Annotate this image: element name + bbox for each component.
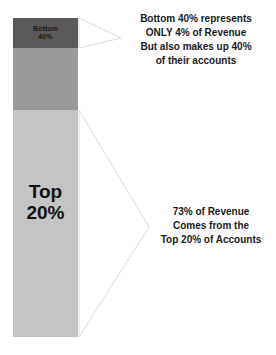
bar-segment-bottom-40: Bottom 40% <box>13 18 78 48</box>
callout-top-line-4: of their accounts <box>120 54 272 68</box>
leader-wedge-top <box>79 18 121 48</box>
top-label-line-2: 20% <box>26 202 64 223</box>
bar-segment-top-20-label: Top 20% <box>26 181 64 223</box>
bar-segment-top-20: Top 20% <box>13 110 78 337</box>
bottom-label-line-1: Bottom <box>33 25 58 34</box>
callout-top-line-2: ONLY 4% of Revenue <box>120 26 272 40</box>
leader-wedge-bottom <box>79 110 149 337</box>
bar-segment-middle <box>13 48 78 110</box>
callout-top-20-annotation: 73% of Revenue Comes from the Top 20% of… <box>150 205 272 247</box>
callout-bottom-line-3: Top 20% of Accounts <box>150 233 272 247</box>
stacked-bar: Bottom 40% Top 20% <box>13 18 78 337</box>
chart-canvas: Bottom 40% Top 20% Bottom 40% represents… <box>0 0 276 355</box>
bar-segment-bottom-40-label: Bottom 40% <box>33 25 58 42</box>
callout-bottom-40-annotation: Bottom 40% represents ONLY 4% of Revenue… <box>120 12 272 68</box>
callout-bottom-line-2: Comes from the <box>150 219 272 233</box>
top-label-line-1: Top <box>26 181 64 202</box>
bottom-label-line-2: 40% <box>33 33 58 42</box>
callout-bottom-line-1: 73% of Revenue <box>150 205 272 219</box>
callout-top-line-3: But also makes up 40% <box>120 40 272 54</box>
callout-top-line-1: Bottom 40% represents <box>120 12 272 26</box>
